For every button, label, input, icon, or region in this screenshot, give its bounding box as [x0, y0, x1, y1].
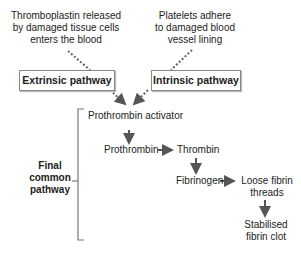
dotted-connector-extrinsic-source [68, 51, 90, 70]
node-prothrombin-activator: Prothrombin activator [88, 110, 183, 122]
final-common-pathway-bracket [78, 109, 84, 240]
dotted-connector-intrinsic-source [171, 50, 192, 70]
node-stabilised-fibrin-clot: Stabilised fibrin clot [240, 219, 292, 243]
extrinsic-pathway-box: Extrinsic pathway [19, 70, 115, 91]
final-common-pathway-label: Final common pathway [28, 160, 72, 196]
intrinsic-trigger-text: Platelets adhere to damaged blood vessel… [150, 10, 240, 46]
node-prothrombin: Prothrombin [104, 144, 158, 156]
node-fibrinogen: Fibrinogen [176, 175, 223, 187]
node-thrombin: Thrombin [177, 144, 219, 156]
dotted-arrow-extrinsic [110, 90, 125, 104]
node-loose-fibrin-threads: Loose fibrin threads [237, 175, 297, 199]
extrinsic-trigger-text: Thromboplastin released by damaged tissu… [10, 10, 122, 46]
dotted-arrow-intrinsic [134, 90, 148, 104]
intrinsic-pathway-box: Intrinsic pathway [151, 70, 241, 91]
